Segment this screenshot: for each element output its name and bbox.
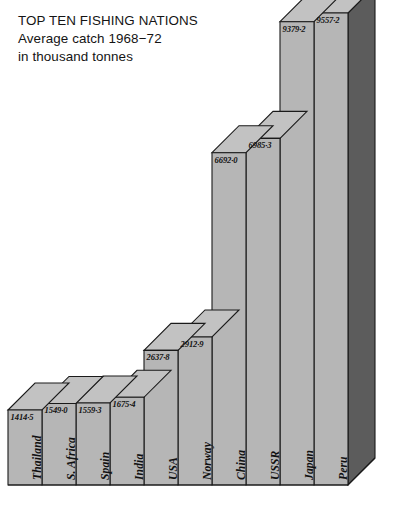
bar-category-label: USA — [167, 457, 180, 480]
bar-value-label: 6985·3 — [249, 140, 272, 150]
bar-value-label: 1559·3 — [79, 405, 102, 415]
bar-value-label: 2637·8 — [147, 352, 170, 362]
bars-svg — [0, 0, 393, 511]
bar-value-label: 9557·2 — [317, 15, 340, 25]
bar-side-face — [348, 0, 375, 485]
bar-category-label: Japan — [303, 450, 316, 480]
bar-value-label: 2912·9 — [181, 339, 204, 349]
bar-value-label: 1675·4 — [113, 399, 136, 409]
bar-peru[interactable] — [314, 0, 375, 485]
bar-category-label: Peru — [337, 456, 350, 480]
bar-value-label: 1414·5 — [11, 412, 34, 422]
bar-value-label: 6692·0 — [215, 155, 238, 165]
bar-category-label: USSR — [269, 451, 282, 480]
bars-layer: 9557·2Peru9379·2Japan6985·3USSR6692·0Chi… — [0, 0, 393, 511]
bar-category-label: Spain — [99, 452, 112, 480]
bar-front-face — [246, 138, 280, 485]
bar-category-label: S. Africa — [65, 437, 78, 480]
bar-category-label: Norway — [201, 442, 214, 480]
bar-category-label: China — [235, 450, 248, 480]
bar-front-face — [280, 22, 314, 485]
bar-category-label: Thailand — [31, 435, 44, 480]
bar-value-label: 1549·0 — [45, 405, 68, 415]
bar-category-label: India — [133, 454, 146, 480]
fishing-nations-chart: TOP TEN FISHING NATIONS Average catch 19… — [0, 0, 393, 511]
bar-front-face — [314, 13, 348, 485]
bar-value-label: 9379·2 — [283, 24, 306, 34]
